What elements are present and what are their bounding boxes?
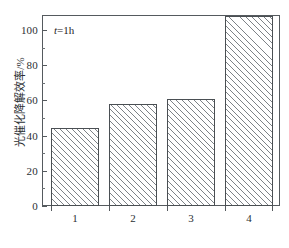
bar-category-3 xyxy=(167,99,215,206)
annotation-value: =1h xyxy=(57,24,74,36)
ytick-label-20: 20 xyxy=(27,166,38,177)
bar-category-2 xyxy=(109,104,157,206)
ytick-mark-40 xyxy=(42,136,47,137)
bars-area xyxy=(43,16,279,206)
ytick-label-0: 0 xyxy=(32,201,38,212)
xtick-label-4: 4 xyxy=(239,212,259,224)
xtick-mark-3 xyxy=(167,206,168,211)
xtick-mark-1 xyxy=(51,206,52,211)
ytick-minor-70 xyxy=(42,83,45,84)
xtick-label-1: 1 xyxy=(65,212,85,224)
ytick-label-80: 80 xyxy=(27,60,38,71)
xtick-mark-2 xyxy=(109,206,110,211)
annotation-time: t=1h xyxy=(54,24,74,36)
ytick-label-100: 100 xyxy=(21,25,38,36)
ytick-mark-20 xyxy=(42,171,47,172)
ytick-mark-100 xyxy=(42,30,47,31)
ytick-label-40: 40 xyxy=(27,131,38,142)
ytick-mark-0 xyxy=(42,206,47,207)
bar-category-4 xyxy=(225,16,273,206)
xtick-mark-4 xyxy=(225,206,226,211)
xtick-label-3: 3 xyxy=(181,212,201,224)
y-axis-title: 光催化降解效率/% xyxy=(14,37,26,167)
bar-category-1 xyxy=(51,128,99,206)
xtick-mark-right-edge xyxy=(272,206,273,211)
ytick-mark-60 xyxy=(42,100,47,101)
ytick-minor-50 xyxy=(42,118,45,119)
ytick-label-60: 60 xyxy=(27,95,38,106)
ytick-minor-30 xyxy=(42,153,45,154)
ytick-minor-90 xyxy=(42,48,45,49)
ytick-minor-10 xyxy=(42,188,45,189)
ytick-mark-80 xyxy=(42,65,47,66)
bar-chart-figure: 0 20 40 60 80 100 1 2 3 4 光催化降解效率/% t=1h xyxy=(0,0,289,248)
xtick-label-2: 2 xyxy=(123,212,143,224)
